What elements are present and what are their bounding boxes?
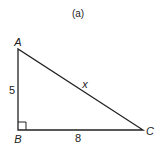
side-label-ab: 5: [9, 84, 15, 96]
vertex-label-c: C: [146, 125, 154, 137]
right-angle-marker: [18, 122, 26, 130]
vertex-label-b: B: [14, 133, 21, 145]
side-label-bc: 8: [75, 132, 81, 144]
side-label-ac: x: [81, 78, 88, 90]
triangle-diagram: (a) A B C 5 8 x: [0, 0, 163, 153]
vertex-label-a: A: [13, 36, 21, 48]
figure-caption: (a): [72, 8, 84, 19]
right-triangle: [18, 49, 143, 130]
